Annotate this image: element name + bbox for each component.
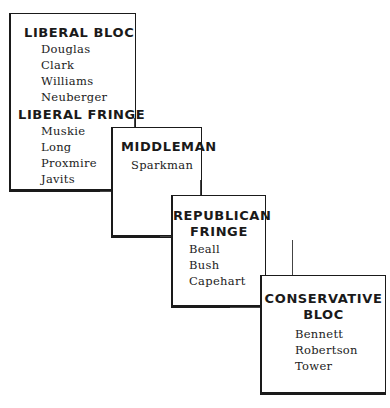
member-sparkman: Sparkman <box>131 157 193 173</box>
member-proxmire: Proxmire <box>41 155 97 171</box>
republican-fringe-heading-line1: REPUBLICAN <box>173 207 265 224</box>
member-tower: Tower <box>295 358 358 374</box>
conservative-bloc-heading-line2: BLOC <box>262 306 385 323</box>
member-douglas: Douglas <box>41 41 107 57</box>
liberal-fringe-heading: LIBERAL FRINGE <box>18 106 145 123</box>
member-neuberger: Neuberger <box>41 89 107 105</box>
connector-3 <box>200 180 201 196</box>
member-williams: Williams <box>41 73 107 89</box>
liberal-bloc-heading: LIBERAL BLOC <box>24 24 134 41</box>
member-long: Long <box>41 139 97 155</box>
republican-fringe-box: REPUBLICAN FRINGE Beall Bush Capehart <box>171 195 266 308</box>
member-muskie: Muskie <box>41 123 97 139</box>
member-bush: Bush <box>189 257 246 273</box>
connector-5 <box>292 240 293 276</box>
connector-6 <box>230 307 261 308</box>
member-bennett: Bennett <box>295 326 358 342</box>
conservative-bloc-box: CONSERVATIVE BLOC Bennett Robertson Towe… <box>260 275 386 395</box>
member-clark: Clark <box>41 57 107 73</box>
middleman-heading: MIDDLEMAN <box>121 138 217 155</box>
conservative-bloc-heading-line1: CONSERVATIVE <box>262 290 385 307</box>
member-javits: Javits <box>41 171 97 187</box>
member-beall: Beall <box>189 241 246 257</box>
republican-fringe-heading-line2: FRINGE <box>173 223 265 240</box>
member-robertson: Robertson <box>295 342 358 358</box>
member-capehart: Capehart <box>189 273 246 289</box>
